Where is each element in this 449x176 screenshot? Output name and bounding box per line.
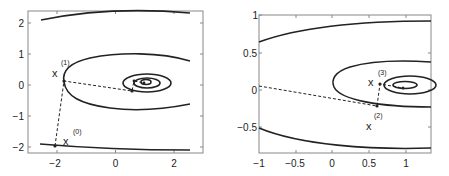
right-axes-frame [259, 15, 431, 153]
iterate-label-0: (0) [73, 128, 82, 136]
left-contours [40, 11, 190, 150]
left-y-ticks [28, 23, 203, 147]
left-ytick-label: 0 [18, 80, 24, 91]
right-contours [259, 21, 436, 148]
right-xtick-label: 0 [329, 158, 335, 169]
iterate-marker-0: x [63, 135, 69, 147]
left-ytick-label: −1 [13, 111, 25, 122]
right-plot: 1 0.5 0 −0.5 −1 −0.5 0 0.5 1 x (3) x (2) [237, 10, 436, 169]
left-xtick-label: −2 [49, 158, 61, 169]
right-ytick-label: −0.5 [237, 122, 257, 133]
right-xtick-label: 1 [403, 158, 409, 169]
right-x-ticks [296, 15, 406, 153]
left-axes-frame [28, 11, 203, 153]
iterate-label-1: (1) [61, 59, 70, 67]
left-plot: 2 1 0 −1 −2 −2 0 2 x (1) x (0) [13, 11, 203, 169]
figure: 2 1 0 −1 −2 −2 0 2 x (1) x (0) [0, 0, 449, 176]
right-ytick-label: 0.5 [243, 48, 257, 59]
iterate-marker-2: x [366, 120, 372, 132]
right-ytick-label: 0 [251, 85, 257, 96]
iterate-label-3: (3) [378, 69, 387, 77]
left-xtick-label: 0 [113, 158, 119, 169]
left-ytick-label: 2 [18, 18, 24, 29]
right-xtick-label: 0.5 [362, 158, 376, 169]
left-xtick-label: 2 [171, 158, 177, 169]
left-ytick-label: 1 [18, 49, 24, 60]
right-xtick-label: −1 [253, 158, 265, 169]
right-y-ticks [259, 15, 431, 127]
right-ytick-label: 1 [252, 10, 258, 21]
iterate-marker-1: x [52, 67, 58, 79]
left-ytick-label: −2 [13, 142, 25, 153]
iterate-marker-3: x [368, 76, 374, 88]
iterate-label-2: (2) [374, 112, 383, 120]
right-xtick-label: −0.5 [285, 158, 305, 169]
